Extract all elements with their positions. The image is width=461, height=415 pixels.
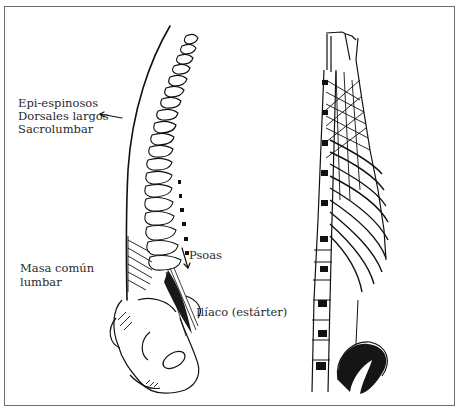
trunk-illustration xyxy=(0,0,461,415)
